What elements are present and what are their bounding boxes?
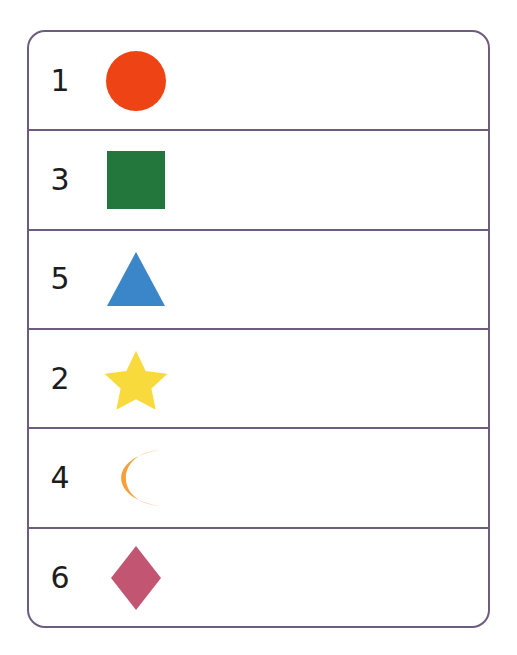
row-empty-space — [181, 231, 488, 328]
table-row: 4 — [29, 429, 488, 528]
shape-cell — [91, 231, 181, 328]
table-row: 1 — [29, 32, 488, 131]
table-row: 2 — [29, 330, 488, 429]
moon-shape-path — [121, 450, 159, 506]
row-empty-space — [181, 429, 488, 526]
row-empty-space — [181, 131, 488, 228]
row-number-label: 6 — [29, 563, 91, 593]
star-shape-path — [105, 350, 167, 408]
shape-number-table: 1 3 5 2 — [27, 30, 490, 628]
shape-cell — [91, 529, 181, 628]
diamond-icon — [110, 545, 162, 611]
triangle-shape-path — [107, 252, 165, 306]
shape-cell — [91, 429, 181, 526]
row-empty-space — [181, 32, 488, 129]
row-number-label: 4 — [29, 463, 91, 493]
circle-icon — [105, 50, 167, 112]
row-empty-space — [181, 330, 488, 427]
diamond-shape-path — [111, 546, 161, 610]
square-icon — [105, 149, 167, 211]
shape-cell — [91, 131, 181, 228]
moon-icon — [111, 447, 161, 509]
row-number-label: 3 — [29, 165, 91, 195]
circle-shape-path — [106, 51, 166, 111]
row-empty-space — [181, 529, 488, 628]
table-row: 5 — [29, 231, 488, 330]
table-row: 3 — [29, 131, 488, 230]
square-shape-path — [107, 151, 165, 209]
table-row: 6 — [29, 529, 488, 628]
row-number-label: 5 — [29, 264, 91, 294]
row-number-label: 1 — [29, 66, 91, 96]
row-number-label: 2 — [29, 364, 91, 394]
triangle-icon — [105, 250, 167, 308]
star-icon — [105, 349, 167, 409]
shape-cell — [91, 32, 181, 129]
shape-cell — [91, 330, 181, 427]
